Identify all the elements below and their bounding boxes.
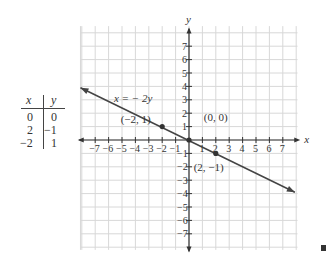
point-label: (0, 0) bbox=[204, 111, 228, 124]
line-arrow-icon bbox=[286, 186, 295, 192]
x-tick-label: 5 bbox=[253, 143, 258, 154]
data-point bbox=[186, 137, 191, 142]
data-point bbox=[213, 151, 218, 156]
y-tick-label: 7 bbox=[182, 41, 187, 52]
data-point bbox=[160, 124, 165, 129]
y-tick-label: 6 bbox=[182, 54, 187, 65]
y-tick-label: 3 bbox=[182, 94, 187, 105]
y-tick-label: −6 bbox=[177, 215, 188, 226]
y-tick-label: −2 bbox=[177, 161, 188, 172]
x-tick-label: −3 bbox=[143, 143, 154, 154]
y-tick-label: −7 bbox=[177, 228, 188, 239]
point-label: (−2, 1) bbox=[121, 113, 151, 126]
y-tick-label: −5 bbox=[177, 202, 188, 213]
x-tick-label: 7 bbox=[280, 143, 285, 154]
y-axis-arrow-icon bbox=[187, 247, 192, 253]
x-tick-label: 4 bbox=[240, 143, 245, 154]
x-axis-label: x bbox=[303, 133, 309, 145]
x-tick-label: 6 bbox=[266, 143, 271, 154]
end-mark bbox=[321, 245, 326, 251]
y-tick-label: 1 bbox=[182, 121, 187, 132]
x-axis-arrow-icon bbox=[294, 138, 300, 143]
y-tick-label: 4 bbox=[182, 81, 187, 92]
point-label: (2, −1) bbox=[194, 161, 224, 174]
y-tick-label: 5 bbox=[182, 68, 187, 79]
x-tick-label: −7 bbox=[89, 143, 100, 154]
y-tick-label: −4 bbox=[177, 188, 188, 199]
x-tick-label: −4 bbox=[129, 143, 140, 154]
equation-label: x = − 2y bbox=[113, 92, 152, 104]
y-axis-arrow-icon bbox=[187, 27, 192, 33]
x-tick-label: −6 bbox=[103, 143, 114, 154]
x-tick-label: −5 bbox=[116, 143, 127, 154]
x-tick-label: −2 bbox=[156, 143, 167, 154]
y-tick-label: −1 bbox=[177, 148, 188, 159]
y-tick-label: −3 bbox=[177, 175, 188, 186]
y-tick-label: 2 bbox=[182, 108, 187, 119]
y-axis-label: y bbox=[185, 13, 191, 25]
x-tick-label: 3 bbox=[226, 143, 231, 154]
